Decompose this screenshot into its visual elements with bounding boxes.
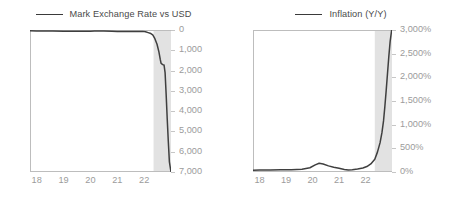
x-tick-label: 21 <box>112 176 122 185</box>
y-tick-mark <box>392 77 396 78</box>
y-tick-mark <box>392 125 396 126</box>
y-tick-label: 1,500% <box>400 96 431 105</box>
x-tick-label: 22 <box>360 176 370 185</box>
y-axis-inflation-yoy: 0%500%1,000%1,500%2,000%2,500%3,000% <box>392 30 444 172</box>
x-tick-label: 20 <box>85 176 95 185</box>
x-axis-inflation-yoy: 1819202122 <box>253 176 392 196</box>
y-tick-mark <box>392 30 396 31</box>
y-tick-mark <box>171 30 175 31</box>
y-tick-label: 500% <box>400 144 424 153</box>
y-tick-label: 6,000 <box>179 147 202 156</box>
y-tick-mark <box>171 172 175 173</box>
y-tick-mark <box>392 101 396 102</box>
plot-svg-inflation-yoy <box>253 30 392 172</box>
plot-svg-mark-exchange-rate <box>30 30 171 172</box>
y-tick-mark <box>171 111 175 112</box>
legend-line-swatch-icon <box>295 14 322 15</box>
y-tick-label: 7,000 <box>179 167 202 176</box>
x-tick-label: 19 <box>281 176 291 185</box>
chart-panel-inflation-yoy: Inflation (Y/Y) 0%500%1,000%1,500%2,000%… <box>227 0 455 202</box>
legend-label: Mark Exchange Rate vs USD <box>70 9 192 19</box>
y-tick-mark <box>392 54 396 55</box>
y-tick-label: 2,000% <box>400 73 431 82</box>
legend-line-swatch-icon <box>36 14 63 15</box>
y-axis-mark-exchange-rate: 01,0002,0003,0004,0005,0006,0007,000 <box>171 30 223 172</box>
x-tick-label: 19 <box>58 176 68 185</box>
y-tick-label: 0% <box>400 167 413 176</box>
y-tick-mark <box>171 50 175 51</box>
x-tick-label: 22 <box>139 176 149 185</box>
plot-area-mark-exchange-rate <box>30 30 171 172</box>
legend-inflation-yoy: Inflation (Y/Y) <box>227 6 455 22</box>
x-tick-label: 18 <box>32 176 42 185</box>
legend-label: Inflation (Y/Y) <box>329 9 386 19</box>
y-tick-mark <box>171 91 175 92</box>
y-tick-mark <box>171 152 175 153</box>
y-tick-label: 1,000 <box>179 46 202 55</box>
plot-area-inflation-yoy <box>253 30 392 172</box>
y-tick-mark <box>171 71 175 72</box>
y-tick-label: 5,000 <box>179 127 202 136</box>
y-tick-label: 4,000 <box>179 107 202 116</box>
y-tick-mark <box>171 131 175 132</box>
y-tick-label: 2,000 <box>179 66 202 75</box>
x-tick-label: 18 <box>254 176 264 185</box>
y-tick-label: 3,000% <box>400 25 431 34</box>
y-tick-mark <box>392 172 396 173</box>
dual-chart-figure: Mark Exchange Rate vs USD 01,0002,0003,0… <box>0 0 455 202</box>
y-tick-label: 0 <box>179 25 184 34</box>
legend-mark-exchange-rate: Mark Exchange Rate vs USD <box>0 6 227 22</box>
y-tick-label: 1,000% <box>400 120 431 129</box>
y-tick-mark <box>392 148 396 149</box>
chart-panel-mark-exchange-rate: Mark Exchange Rate vs USD 01,0002,0003,0… <box>0 0 227 202</box>
x-axis-mark-exchange-rate: 1819202122 <box>30 176 171 196</box>
x-tick-label: 21 <box>334 176 344 185</box>
y-tick-label: 2,500% <box>400 49 431 58</box>
y-tick-label: 3,000 <box>179 86 202 95</box>
x-tick-label: 20 <box>307 176 317 185</box>
